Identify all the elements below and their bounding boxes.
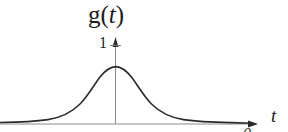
gaussian-pulse-figure: g(t) 1 t 0 (0, 0, 288, 132)
x-axis-label: t (271, 106, 276, 125)
function-name: g (88, 1, 101, 28)
function-variable: t (109, 1, 116, 28)
open-paren: ( (101, 1, 109, 28)
y-axis-tick-label-1: 1 (99, 35, 107, 51)
function-label: g(t) (88, 2, 124, 27)
close-paren: ) (116, 1, 124, 28)
plot-canvas (0, 0, 288, 132)
cropped-bottom-glyph: 0 (243, 126, 251, 132)
gaussian-curve (0, 67, 252, 124)
